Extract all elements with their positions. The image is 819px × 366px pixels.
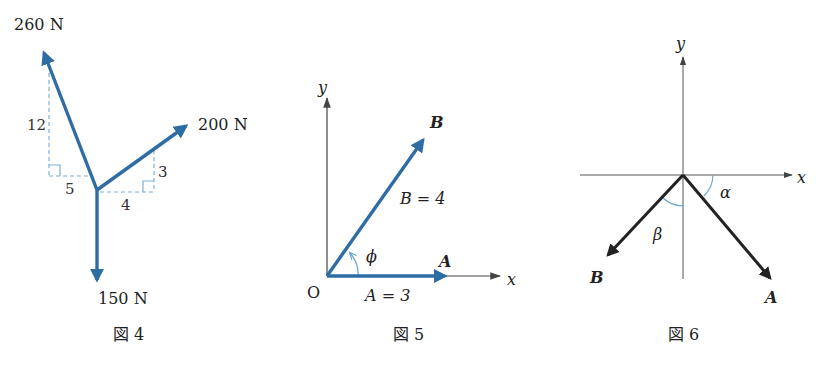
force-label-200n: 200 N	[198, 115, 248, 134]
x-axis-label: x	[797, 168, 806, 187]
force-label-150n: 150 N	[98, 289, 148, 308]
triangle-label-4: 4	[121, 196, 131, 214]
angle-label-beta: β	[652, 225, 662, 244]
angle-arc-alpha	[704, 175, 713, 196]
vector-a-name: A	[437, 252, 451, 271]
triangle-label-5: 5	[65, 180, 75, 198]
vector-a-name: A	[763, 288, 777, 307]
figure-caption-4: 図 4	[113, 325, 144, 344]
figure-caption-6: 図 6	[668, 325, 699, 344]
vector-b	[608, 175, 683, 255]
angle-arc-phi	[350, 253, 358, 276]
y-axis-label: y	[675, 34, 686, 53]
force-vector-260n	[44, 53, 97, 190]
vector-a-magnitude: A = 3	[363, 286, 410, 305]
angle-label-phi: ϕ	[366, 247, 377, 266]
x-axis-label: x	[507, 270, 516, 289]
figure-4: 260 N 200 N 150 N 12 5 3 4 図 4	[14, 15, 248, 344]
triangle-label-12: 12	[27, 116, 46, 134]
figure-caption-5: 図 5	[393, 325, 424, 344]
angle-arc-beta	[661, 196, 683, 206]
origin-label: O	[307, 283, 320, 302]
angle-label-alpha: α	[720, 183, 731, 202]
force-label-260n: 260 N	[14, 15, 64, 34]
figures-canvas: 260 N 200 N 150 N 12 5 3 4 図 4 y x O B A…	[0, 0, 819, 366]
figure-6: y x α β A B 図 6	[580, 34, 806, 344]
triangle-label-3: 3	[158, 163, 168, 181]
vector-b-name: B	[429, 113, 444, 132]
force-vector-200n	[97, 126, 186, 190]
vector-b-magnitude: B = 4	[399, 189, 446, 208]
y-axis-label: y	[317, 78, 328, 97]
figure-5: y x O B A B = 4 A = 3 ϕ 図 5	[307, 78, 516, 344]
vector-b-name: B	[589, 268, 604, 287]
